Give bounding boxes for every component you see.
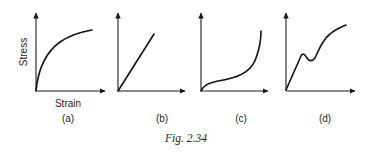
panel-b: (b) (118, 13, 185, 124)
panel-c: (c) (201, 13, 268, 124)
panel-label-a: (a) (62, 113, 74, 124)
panel-a: Stress Strain (a) (18, 13, 105, 124)
y-axis-label: Stress (18, 38, 29, 66)
curve-c (201, 31, 261, 91)
figure-caption: Fig. 2.34 (164, 132, 207, 145)
curve-b (118, 34, 154, 91)
curve-a (36, 30, 92, 91)
panel-label-b: (b) (156, 113, 168, 124)
panel-label-c: (c) (235, 113, 247, 124)
panel-label-d: (d) (319, 113, 331, 124)
stress-strain-figure: Stress Strain (a) (b) (c) (d) Fig. 2.34 (0, 0, 370, 155)
panel-d: (d) (286, 13, 355, 124)
curve-d (286, 25, 346, 90)
x-axis-label: Strain (55, 98, 81, 109)
